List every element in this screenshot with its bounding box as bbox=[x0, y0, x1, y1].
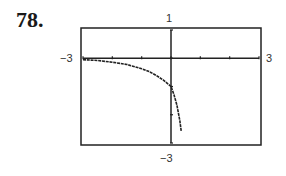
graph-plot bbox=[0, 0, 286, 176]
function-curve bbox=[83, 60, 181, 132]
